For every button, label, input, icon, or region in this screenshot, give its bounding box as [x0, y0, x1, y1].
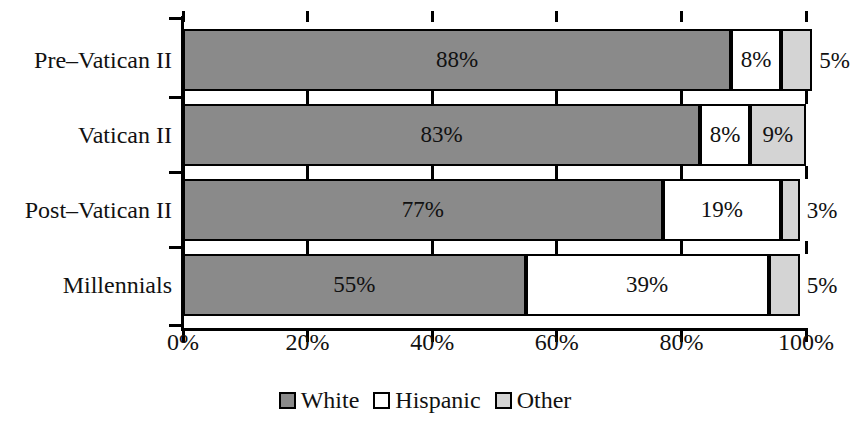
- x-axis-tick-label: 60%: [535, 330, 579, 354]
- bar-value-label: 3%: [807, 198, 838, 221]
- legend-swatch-icon: [279, 392, 296, 409]
- x-axis-tick-gap: [555, 241, 558, 254]
- y-axis-tick: [169, 96, 182, 99]
- x-axis-tick-gap: [805, 241, 808, 254]
- bar-value-label: 8%: [741, 48, 772, 71]
- legend-label: White: [301, 388, 360, 412]
- bar-row: 83%8%9%: [183, 104, 806, 166]
- y-axis-label: Pre–Vatican II: [0, 48, 172, 72]
- y-axis-tick: [169, 17, 182, 20]
- legend-item-other[interactable]: Other: [495, 388, 572, 412]
- x-axis-tick-gap: [431, 166, 434, 179]
- y-axis-tick: [169, 171, 182, 174]
- y-axis-tick: [169, 324, 182, 327]
- x-axis-tick-label: 80%: [659, 330, 703, 354]
- bar-value-label: 5%: [807, 273, 838, 296]
- x-axis-tick-gap: [431, 241, 434, 254]
- x-axis-tick-label: 0%: [167, 330, 199, 354]
- bar-segment-white: 77%: [183, 179, 663, 241]
- stacked-bar-chart: Pre–Vatican IIVatican IIPost–Vatican IIM…: [0, 0, 850, 446]
- bar-value-label: 19%: [701, 198, 743, 221]
- bar-segment-hispanic: 8%: [731, 29, 781, 91]
- bar-segment-other: 5%: [781, 29, 812, 91]
- bar-row: 55%39%5%: [183, 254, 806, 316]
- x-axis-tick-top: [680, 11, 683, 22]
- x-axis-tick-gap: [805, 91, 808, 104]
- bar-segment-white: 88%: [183, 29, 731, 91]
- bar-value-label: 5%: [819, 48, 850, 71]
- legend-item-hispanic[interactable]: Hispanic: [373, 388, 480, 412]
- bar-value-label: 55%: [333, 273, 375, 296]
- bar-row: 88%8%5%: [183, 29, 806, 91]
- x-axis-tick-label: 20%: [286, 330, 330, 354]
- y-axis-label: Post–Vatican II: [0, 198, 172, 222]
- bar-segment-other: 9%: [750, 104, 806, 166]
- bar-value-label: 39%: [626, 273, 668, 296]
- x-axis-tick-top: [306, 11, 309, 22]
- bar-value-label: 9%: [763, 123, 794, 146]
- x-axis-tick-gap: [306, 91, 309, 104]
- bar-value-label: 77%: [402, 198, 444, 221]
- legend-label: Hispanic: [395, 388, 480, 412]
- x-axis-tick-gap: [680, 241, 683, 254]
- y-axis-tick: [169, 246, 182, 249]
- x-axis-tick-gap: [306, 166, 309, 179]
- x-axis-tick-gap: [555, 166, 558, 179]
- x-axis-tick-label: 100%: [778, 330, 834, 354]
- x-axis-tick-gap: [182, 241, 185, 254]
- x-axis-tick-gap: [431, 91, 434, 104]
- x-axis-tick-gap: [182, 166, 185, 179]
- legend-swatch-icon: [495, 392, 512, 409]
- x-axis-tick-top: [182, 11, 185, 22]
- legend-label: Other: [517, 388, 572, 412]
- bar-segment-white: 55%: [183, 254, 526, 316]
- legend-swatch-icon: [373, 392, 390, 409]
- bar-segment-hispanic: 19%: [663, 179, 781, 241]
- chart-legend: WhiteHispanicOther: [0, 388, 850, 412]
- x-axis-tick-gap: [805, 166, 808, 179]
- y-axis-category-labels: Pre–Vatican IIVatican IIPost–Vatican IIM…: [0, 22, 172, 322]
- bar-value-label: 83%: [420, 123, 462, 146]
- x-axis-tick-gap: [680, 166, 683, 179]
- bar-value-label: 88%: [436, 48, 478, 71]
- legend-item-white[interactable]: White: [279, 388, 360, 412]
- x-axis-tick-gap: [182, 91, 185, 104]
- bar-row: 77%19%3%: [183, 179, 806, 241]
- x-axis-tick-labels: 0%20%40%60%80%100%: [183, 330, 806, 362]
- y-axis-label: Vatican II: [0, 123, 172, 147]
- bar-segment-white: 83%: [183, 104, 700, 166]
- plot-area: 88%8%5%83%8%9%77%19%3%55%39%5%: [183, 22, 806, 322]
- x-axis-tick-top: [555, 11, 558, 22]
- x-axis-tick-gap: [555, 91, 558, 104]
- x-axis-tick-gap: [306, 241, 309, 254]
- bar-segment-other: 3%: [781, 179, 800, 241]
- y-axis-label: Millennials: [0, 273, 172, 297]
- bar-value-label: 8%: [710, 123, 741, 146]
- x-axis-tick-label: 40%: [410, 330, 454, 354]
- bar-segment-other: 5%: [769, 254, 800, 316]
- x-axis-tick-gap: [680, 91, 683, 104]
- x-axis-tick-top: [431, 11, 434, 22]
- bar-segment-hispanic: 39%: [526, 254, 769, 316]
- bar-segment-hispanic: 8%: [700, 104, 750, 166]
- x-axis-tick-top: [805, 11, 808, 22]
